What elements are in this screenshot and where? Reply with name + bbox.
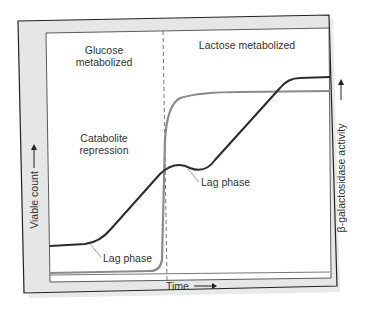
glucose-region-label-1: Glucose [85,44,124,56]
lactose-region-label: Lactose metabolized [199,39,295,51]
glucose-region-label-2: metabolized [76,56,133,68]
catabolite-label-1: Catabolite [80,132,127,144]
diauxic-growth-diagram: Glucose metabolized Lactose metabolized … [0,0,379,323]
lag-phase-label-1: Lag phase [103,252,152,264]
y-right-axis-arrowhead-icon [338,79,344,85]
catabolite-label-2: repression [79,144,128,156]
x-axis-label: Time [166,280,189,292]
y-right-axis-label: β-galactosidase activity [335,123,347,233]
lag-phase-label-2: Lag phase [201,176,250,188]
y-left-axis-label: Viable count [28,171,40,229]
